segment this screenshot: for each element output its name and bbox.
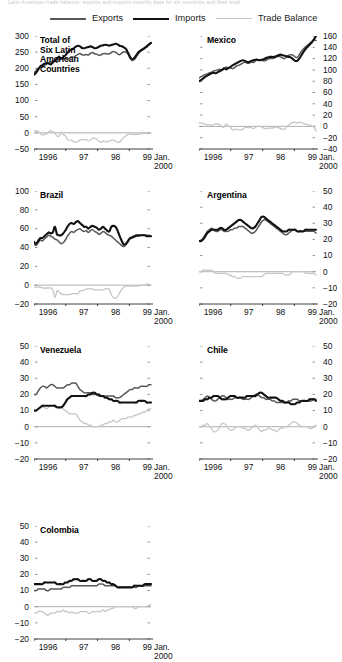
- y-axis-tick-label: 30: [2, 374, 29, 382]
- y-axis-tick-label: 80: [323, 77, 342, 85]
- plot-area: [34, 346, 159, 461]
- panel-title: Venezuela: [40, 346, 81, 356]
- y-axis-tick-label: 300: [2, 32, 29, 40]
- series-line-imports: [199, 393, 316, 405]
- y-axis-tick-label: 0: [2, 603, 29, 611]
- panel-title: Chile: [207, 346, 228, 356]
- x-axis-tick-label: 97: [72, 643, 96, 651]
- y-axis-tick-label: 100: [323, 66, 342, 74]
- x-axis-tick-label: 97: [72, 463, 96, 471]
- x-axis-tick-label: 98: [269, 308, 293, 316]
- x-axis-tick-label: 97: [237, 308, 261, 316]
- x-axis-tick-label: 97: [237, 153, 261, 161]
- y-axis-tick-label: 50: [323, 342, 342, 350]
- y-axis-tick-label: 50: [2, 342, 29, 350]
- panel-title: Mexico: [207, 36, 236, 46]
- panel-title: Total of Six Latin American Countries: [40, 36, 80, 74]
- x-axis-end-label-year: 2000: [154, 317, 178, 325]
- y-axis-tick-label: 10: [323, 251, 342, 259]
- legend-label-exports: Exports: [92, 12, 123, 25]
- plot-area: [199, 346, 324, 461]
- panel-title: Colombia: [40, 526, 79, 536]
- y-axis-tick-label: −10: [2, 619, 29, 627]
- x-axis-tick-label: 98: [269, 463, 293, 471]
- y-axis-tick-label: 160: [323, 32, 342, 40]
- y-axis-tick-label: 20: [323, 111, 342, 119]
- legend-item-trade-balance: Trade Balance: [216, 12, 326, 26]
- y-axis-tick-label: 50: [323, 187, 342, 195]
- y-axis-tick-label: 0: [2, 281, 29, 289]
- x-axis-tick-label: 98: [269, 153, 293, 161]
- legend-swatch-imports: [133, 18, 169, 20]
- legend-label-imports: Imports: [175, 12, 206, 25]
- x-axis-tick-label: 97: [72, 153, 96, 161]
- y-axis-tick-label: 100: [2, 96, 29, 104]
- x-axis-tick-label: 1996: [201, 153, 225, 161]
- y-axis-tick-label: 0: [2, 423, 29, 431]
- series-line-exports: [34, 383, 151, 398]
- y-axis-tick-label: 60: [2, 224, 29, 232]
- y-axis-tick-label: −10: [323, 284, 342, 292]
- y-axis-tick-label: 10: [2, 586, 29, 594]
- plot-area: [199, 191, 324, 306]
- y-axis-tick-label: −20: [2, 300, 29, 308]
- x-axis-end-label-year: 2000: [319, 162, 342, 170]
- chart-legend: Exports Imports Trade Balance: [0, 12, 334, 26]
- plot-area: [34, 526, 159, 641]
- x-axis-tick-label: 1996: [201, 463, 225, 471]
- y-axis-tick-label: 250: [2, 48, 29, 56]
- y-axis-tick-label: 20: [2, 262, 29, 270]
- y-axis-tick-label: −10: [2, 439, 29, 447]
- y-axis-tick-label: 40: [323, 358, 342, 366]
- series-line-trade-balance: [199, 270, 316, 278]
- series-line-imports: [34, 393, 151, 411]
- y-axis-tick-label: −20: [323, 134, 342, 142]
- y-axis-tick-label: 40: [2, 243, 29, 251]
- y-axis-tick-label: 40: [323, 100, 342, 108]
- series-line-trade-balance: [34, 284, 151, 298]
- x-axis-tick-label: 1996: [36, 463, 60, 471]
- panel-title: Argentina: [207, 191, 247, 201]
- cut-off-source-line: Latin American trade balance: exports an…: [8, 0, 326, 5]
- y-axis-tick-label: 200: [2, 64, 29, 72]
- y-axis-tick-label: 0: [2, 129, 29, 137]
- y-axis-tick-label: 140: [323, 43, 342, 51]
- y-axis-tick-label: 20: [2, 570, 29, 578]
- y-axis-tick-label: 20: [2, 390, 29, 398]
- x-axis-tick-label: 98: [104, 308, 128, 316]
- x-axis-end-label-year: 2000: [319, 472, 342, 480]
- y-axis-tick-label: 40: [323, 203, 342, 211]
- y-axis-tick-label: 0: [323, 122, 342, 130]
- y-axis-tick-label: 120: [323, 54, 342, 62]
- y-axis-tick-label: 20: [323, 390, 342, 398]
- series-line-trade-balance: [34, 131, 151, 143]
- y-axis-tick-label: 100: [2, 187, 29, 195]
- panel-title: Brazil: [40, 191, 63, 201]
- x-axis-tick-label: 1996: [36, 643, 60, 651]
- y-axis-tick-label: 50: [2, 113, 29, 121]
- y-axis-tick-label: −20: [2, 455, 29, 463]
- x-axis-end-label-year: 2000: [319, 317, 342, 325]
- x-axis-tick-label: 1996: [36, 308, 60, 316]
- y-axis-tick-label: 30: [2, 554, 29, 562]
- y-axis-tick-label: 0: [323, 423, 342, 431]
- y-axis-tick-label: 50: [2, 522, 29, 530]
- x-axis-tick-label: 98: [104, 463, 128, 471]
- series-line-trade-balance: [34, 406, 151, 427]
- y-axis-tick-label: 30: [323, 374, 342, 382]
- x-axis-tick-label: 97: [72, 308, 96, 316]
- y-axis-tick-label: −20: [2, 635, 29, 643]
- series-line-imports: [34, 221, 151, 245]
- x-axis-tick-label: 98: [104, 153, 128, 161]
- y-axis-tick-label: −50: [2, 145, 29, 153]
- y-axis-tick-label: 20: [323, 235, 342, 243]
- x-axis-tick-label: 98: [104, 643, 128, 651]
- x-axis-tick-label: 1996: [201, 308, 225, 316]
- legend-swatch-trade-balance: [216, 18, 252, 19]
- legend-swatch-exports: [50, 18, 86, 20]
- y-axis-tick-label: −10: [323, 439, 342, 447]
- y-axis-tick-label: 10: [323, 406, 342, 414]
- plot-area: [34, 191, 159, 306]
- y-axis-tick-label: 10: [2, 406, 29, 414]
- x-axis-end-label-year: 2000: [154, 472, 178, 480]
